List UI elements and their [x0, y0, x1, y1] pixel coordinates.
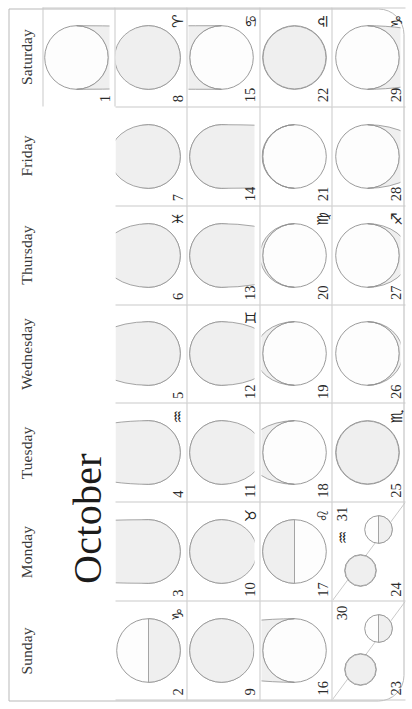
moon-phase-icon [261, 419, 327, 485]
moon-phase-icon [188, 518, 254, 584]
week-row-2: 910♉1112♊131415♋ [187, 7, 260, 700]
day-number: 27 [388, 285, 403, 300]
day-number: 7 [170, 193, 185, 200]
calendar-day-cell[interactable]: 3 [115, 501, 188, 600]
calendar-day-cell[interactable]: 8♈ [115, 7, 188, 106]
moon-phase-icon [115, 222, 181, 288]
calendar-day-cell[interactable]: 16 [260, 600, 333, 700]
moon-phase-icon [188, 419, 254, 485]
calendar-day-cell[interactable]: 2431♒ [332, 501, 405, 600]
day-number: 13 [242, 285, 257, 300]
calendar-day-cell[interactable]: 13 [187, 205, 260, 304]
calendar-cell-empty [42, 501, 115, 600]
week-row-0: 1 [42, 7, 115, 700]
week-row-3: 1617♌181920♍2122♎ [260, 7, 333, 700]
day-number: 20 [315, 285, 330, 300]
day-number: 21 [315, 186, 330, 201]
calendar-day-cell[interactable]: 14 [187, 106, 260, 205]
moon-phase-icon [343, 652, 377, 686]
day-number: 23 [388, 681, 403, 696]
day-number: 1 [97, 95, 112, 102]
calendar-day-cell[interactable]: 18 [260, 402, 333, 501]
calendar-day-cell[interactable]: 9 [187, 600, 260, 700]
calendar-grid: SundayMondayTuesdayWednesdayThursdayFrid… [42, 7, 405, 700]
calendar-day-cell[interactable]: 22♎ [260, 7, 333, 106]
calendar-day-cell[interactable]: 19 [260, 304, 333, 403]
day-number: 17 [315, 582, 330, 597]
moon-phase-icon [188, 617, 254, 683]
moon-phase-icon [188, 321, 254, 387]
zodiac-symbol: ♓ [170, 212, 185, 225]
weekday-header-tuesday: Tuesday [9, 403, 42, 502]
moon-phase-icon [343, 553, 377, 587]
weekday-header-row: SundayMondayTuesdayWednesdayThursdayFrid… [9, 7, 42, 700]
day-number: 29 [388, 87, 403, 102]
calendar-cell-empty [42, 304, 115, 403]
moon-slot [43, 8, 114, 106]
moon-phase-icon [115, 419, 181, 485]
moon-phase-icon [334, 24, 400, 90]
moon-phase-icon [188, 24, 254, 90]
rotated-page-stage: SundayMondayTuesdayWednesdayThursdayFrid… [0, 0, 412, 709]
moon-phase-icon [363, 514, 393, 544]
moon-phase-icon [43, 24, 109, 90]
weekday-header-sunday: Sunday [9, 601, 42, 700]
calendar-page: SundayMondayTuesdayWednesdayThursdayFrid… [8, 8, 404, 701]
moon-phase-icon [334, 321, 400, 387]
calendar-day-cell[interactable]: 1 [42, 7, 115, 106]
day-number-secondary: 31 [334, 506, 349, 521]
calendar-day-cell[interactable]: 2330 [332, 600, 405, 700]
calendar-day-cell[interactable]: 21 [260, 106, 333, 205]
day-number: 10 [242, 582, 257, 597]
moon-phase-icon [334, 222, 400, 288]
day-number: 9 [242, 688, 257, 695]
calendar-day-cell[interactable]: 17♌ [260, 501, 333, 600]
calendar-day-cell[interactable]: 4♒ [115, 402, 188, 501]
calendar-day-cell[interactable]: 27♐ [332, 205, 405, 304]
weekday-header-monday: Monday [9, 502, 42, 601]
moon-slot-secondary [357, 605, 399, 651]
calendar-day-cell[interactable]: 26 [332, 304, 405, 403]
zodiac-symbol-secondary: ♒ [335, 530, 350, 543]
calendar-day-cell[interactable]: 25♏ [332, 402, 405, 501]
moon-phase-icon [115, 617, 181, 683]
day-number: 15 [242, 87, 257, 102]
calendar-cell-empty [42, 205, 115, 304]
week-row-4: 23302431♒25♏2627♐2829♑ [332, 7, 405, 700]
moon-phase-icon [115, 518, 181, 584]
zodiac-symbol: ♑ [170, 607, 185, 620]
calendar-day-cell[interactable]: 2♑ [115, 600, 188, 700]
zodiac-symbol: ♌ [315, 508, 330, 521]
calendar-day-cell[interactable]: 7 [115, 106, 188, 205]
day-number: 5 [170, 391, 185, 398]
moon-slot [115, 107, 187, 205]
moon-slot-secondary [357, 506, 399, 552]
day-number: 2 [170, 688, 185, 695]
weekday-header-thursday: Thursday [9, 205, 42, 304]
day-number: 14 [242, 186, 257, 201]
day-number: 16 [315, 681, 330, 696]
calendar-day-cell[interactable]: 20♍ [260, 205, 333, 304]
moon-phase-icon [261, 123, 327, 189]
calendar-day-cell[interactable]: 12♊ [187, 304, 260, 403]
calendar-day-cell[interactable]: 5 [115, 304, 188, 403]
calendar-cell-empty [42, 402, 115, 501]
zodiac-symbol: ♋ [243, 14, 258, 27]
day-number: 24 [388, 582, 403, 597]
weekday-header-friday: Friday [9, 106, 42, 205]
day-number: 22 [315, 87, 330, 102]
day-number: 11 [242, 483, 257, 497]
calendar-day-cell[interactable]: 15♋ [187, 7, 260, 106]
day-number: 28 [388, 186, 403, 201]
calendar-day-cell[interactable]: 29♑ [332, 7, 405, 106]
moon-phase-icon [115, 24, 181, 90]
day-number: 19 [315, 384, 330, 399]
moon-phase-icon [334, 123, 400, 189]
calendar-day-cell[interactable]: 28 [332, 106, 405, 205]
zodiac-symbol: ♈ [170, 14, 185, 27]
calendar-day-cell[interactable]: 6♓ [115, 205, 188, 304]
day-number: 6 [170, 292, 185, 299]
calendar-day-cell[interactable]: 11 [187, 402, 260, 501]
calendar-day-cell[interactable]: 10♉ [187, 501, 260, 600]
moon-phase-icon [115, 123, 181, 189]
